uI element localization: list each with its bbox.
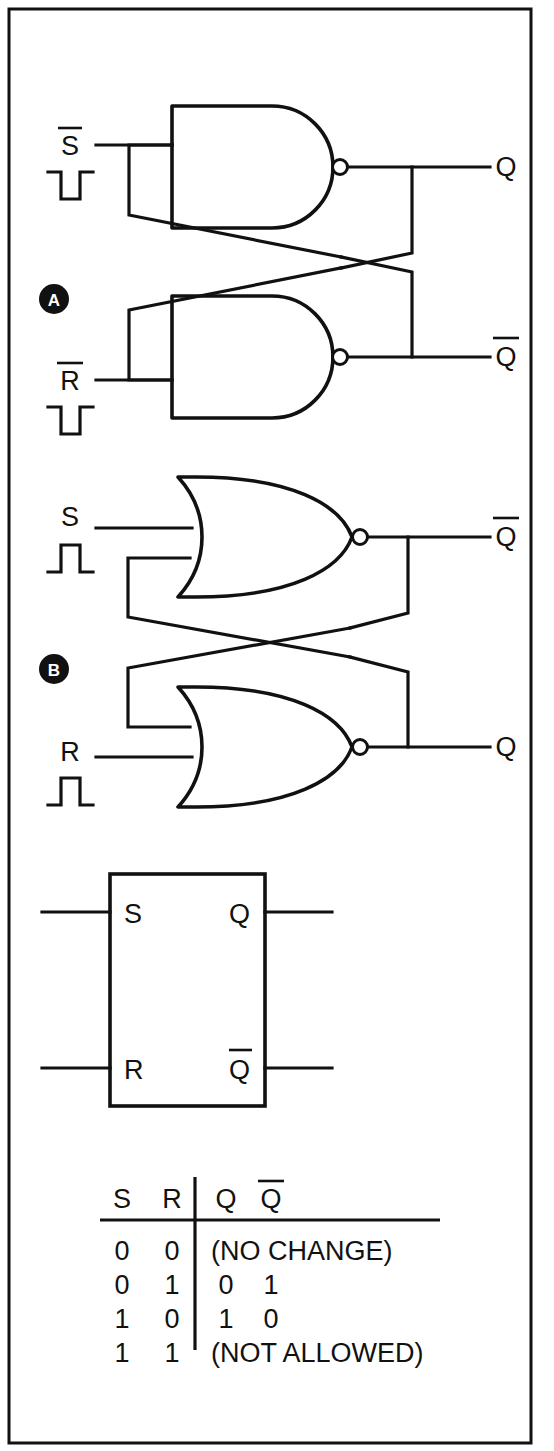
truth-table-header-qbar: Q bbox=[258, 1181, 284, 1214]
section-b-nor-latch: B S R Q Q bbox=[39, 477, 519, 807]
truth-table: S R Q Q 0 0 (NO CHANGE) 0 1 0 1 1 0 1 0 bbox=[100, 1177, 440, 1368]
section-badge-b: B bbox=[39, 654, 69, 684]
truth-table-header-q: Q bbox=[215, 1184, 236, 1214]
feedback-wire-qbar-to-lower-nor bbox=[350, 537, 408, 628]
nand-gate-bottom bbox=[172, 296, 333, 418]
section-badge-a-label: A bbox=[48, 291, 60, 310]
truth-table-cell-s: 1 bbox=[114, 1304, 129, 1334]
section-badge-a: A bbox=[39, 284, 69, 314]
truth-table-cell-qbar: 0 bbox=[263, 1304, 278, 1334]
truth-table-cell-note: (NO CHANGE) bbox=[211, 1236, 393, 1266]
table-row: 1 1 (NOT ALLOWED) bbox=[114, 1338, 423, 1368]
block-pin-label-s: S bbox=[124, 899, 142, 929]
section-a-nand-latch: A S R Q bbox=[39, 106, 519, 434]
input-label-r-bar-text: R bbox=[60, 366, 80, 396]
feedback-wire-q-to-lower-nand bbox=[341, 167, 412, 268]
output-label-qbar-b-text: Q bbox=[495, 522, 516, 552]
truth-table-cell-s: 0 bbox=[114, 1270, 129, 1300]
feedback-wire-q-to-upper-nor bbox=[350, 657, 408, 747]
input-label-s-bar-text: S bbox=[61, 131, 79, 161]
truth-table-cell-s: 1 bbox=[114, 1338, 129, 1368]
input-label-r-bar: R bbox=[57, 363, 83, 396]
nor-gate-bottom bbox=[178, 687, 352, 807]
truth-table-cell-qbar: 1 bbox=[263, 1270, 278, 1300]
nor-gate-top-bubble bbox=[353, 530, 368, 545]
nor-gate-top bbox=[178, 477, 352, 597]
truth-table-cell-r: 0 bbox=[164, 1236, 179, 1266]
truth-table-cell-r: 1 bbox=[164, 1338, 179, 1368]
truth-table-cell-r: 0 bbox=[164, 1304, 179, 1334]
block-pin-label-qbar-text: Q bbox=[229, 1055, 250, 1085]
negative-pulse-glyph-s bbox=[48, 172, 93, 199]
truth-table-cell-r: 1 bbox=[164, 1270, 179, 1300]
nand-gate-top bbox=[172, 106, 333, 228]
nor-gate-bottom-bubble bbox=[353, 740, 368, 755]
truth-table-cell-q: 0 bbox=[218, 1270, 233, 1300]
truth-table-header-qbar-text: Q bbox=[260, 1184, 281, 1214]
feedback-wire-qbar-to-upper-nand bbox=[341, 257, 412, 357]
section-badge-b-label: B bbox=[48, 661, 60, 680]
nand-gate-top-bubble bbox=[333, 160, 348, 175]
sr-latch-diagram: A S R Q bbox=[0, 0, 554, 1451]
block-symbol: S R Q Q bbox=[42, 874, 332, 1106]
block-pin-label-qbar: Q bbox=[229, 1050, 252, 1085]
truth-table-cell-s: 0 bbox=[114, 1236, 129, 1266]
output-label-qbar-a: Q bbox=[493, 338, 519, 372]
output-label-q-a: Q bbox=[495, 152, 516, 182]
input-label-r: R bbox=[60, 737, 80, 767]
truth-table-header-s: S bbox=[113, 1184, 131, 1214]
figure-container: A S R Q bbox=[0, 0, 554, 1451]
truth-table-cell-q: 1 bbox=[218, 1304, 233, 1334]
truth-table-cell-note: (NOT ALLOWED) bbox=[211, 1338, 424, 1368]
positive-pulse-glyph-r bbox=[48, 778, 93, 805]
output-label-qbar-b: Q bbox=[493, 518, 519, 552]
output-label-qbar-a-text: Q bbox=[495, 342, 516, 372]
block-pin-label-r: R bbox=[124, 1055, 144, 1085]
positive-pulse-glyph-s bbox=[48, 545, 93, 572]
nand-gate-bottom-bubble bbox=[333, 350, 348, 365]
input-label-s-bar: S bbox=[58, 128, 82, 161]
input-label-s: S bbox=[61, 502, 79, 532]
output-label-q-b: Q bbox=[495, 732, 516, 762]
negative-pulse-glyph-r bbox=[48, 407, 93, 434]
truth-table-header-r: R bbox=[162, 1184, 182, 1214]
table-row: 0 0 (NO CHANGE) bbox=[114, 1236, 392, 1266]
block-pin-label-q: Q bbox=[229, 899, 250, 929]
